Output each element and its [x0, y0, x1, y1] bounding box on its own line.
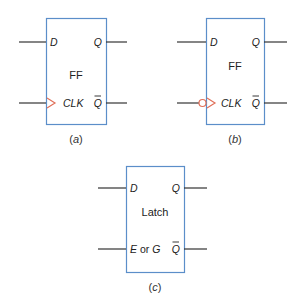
- pin-clk-label: CLK: [221, 97, 242, 109]
- caption-a: (a): [69, 133, 82, 145]
- block-label: FF: [228, 60, 242, 72]
- inversion-bubble-icon: [199, 100, 206, 107]
- pin-qbar-label: Q: [94, 97, 102, 109]
- caption-c: (c): [149, 281, 162, 293]
- flip-flop-latch-diagram: D Q FF CLK Q (a) D Q FF CLK Q (b) D Q La…: [0, 0, 304, 301]
- pin-q-label: Q: [252, 36, 260, 48]
- pin-d-label: D: [130, 182, 138, 194]
- pin-d-label: D: [210, 36, 218, 48]
- diagram-b-falling-edge-ff: D Q FF CLK Q (b): [177, 19, 287, 146]
- pin-q-label: Q: [94, 36, 102, 48]
- pin-enable-label: E or G: [130, 243, 160, 255]
- caption-b: (b): [228, 133, 241, 145]
- block-label: FF: [69, 69, 83, 81]
- diagram-a-rising-edge-ff: D Q FF CLK Q (a): [19, 19, 127, 146]
- pin-q-label: Q: [172, 182, 180, 194]
- diagram-c-latch: D Q Latch E or G Q (c): [98, 167, 207, 294]
- pin-qbar-label: Q: [172, 243, 180, 255]
- pin-qbar-label: Q: [252, 97, 260, 109]
- pin-d-label: D: [50, 36, 58, 48]
- block-label: Latch: [142, 206, 169, 218]
- pin-clk-label: CLK: [63, 97, 84, 109]
